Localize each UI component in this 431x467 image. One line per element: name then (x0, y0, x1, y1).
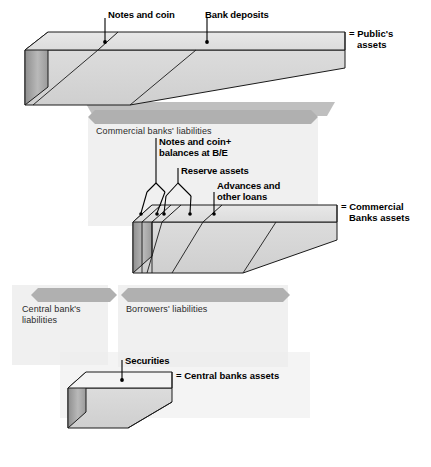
slab-front-face (25, 50, 345, 105)
banner-label-central-bank-liabilities-line2: liabilities (22, 315, 57, 327)
banner-borrowers-liabilities (121, 288, 290, 302)
callout-label-bank-deposits: Bank deposits (205, 9, 269, 20)
diagram-canvas (0, 0, 431, 467)
banner-central-bank-liabilities (31, 288, 117, 302)
right-label-commercial-banks-line1: = Commercial (341, 201, 404, 212)
banner-chevron-shape (31, 288, 117, 302)
balance-sheet-layers-diagram: Notes and coin Bank deposits = Public's … (0, 0, 431, 467)
callout-dot-securities (120, 378, 124, 382)
banner-chevron-shape (88, 110, 318, 124)
callout-dot-notes-and-coin (103, 40, 107, 44)
right-label-publics-assets-line2: assets (357, 39, 387, 50)
callout-label-notes-and-coin: Notes and coin (108, 9, 175, 20)
callout-label-securities: Securities (125, 355, 169, 366)
slab-front-face (133, 222, 337, 273)
callout-label-reserve-assets: Reserve assets (181, 165, 249, 176)
callout-dot-bank-deposits (205, 40, 209, 44)
right-label-publics-assets-line1: = Public's (349, 28, 393, 39)
right-label-commercial-banks-line2: Banks assets (349, 212, 410, 223)
callout-label-advances-line1: Advances and (217, 180, 280, 191)
banner-label-borrowers-liabilities: Borrowers' liabilities (126, 304, 207, 316)
right-label-central-banks-assets: = Central banks assets (176, 370, 279, 381)
slab-top-face (68, 372, 172, 388)
banner-commercial-banks-liabilities (88, 110, 318, 124)
slab-publics-assets (25, 18, 345, 116)
banner-label-central-bank-liabilities-line1: Central bank's (22, 304, 81, 316)
callout-label-advances-line2: other loans (217, 191, 267, 202)
callout-label-notes-coin-balances-line1: Notes and coin+ (159, 136, 231, 147)
callout-label-notes-coin-balances-line2: balances at B/E (159, 147, 228, 158)
slab-top-face (25, 32, 345, 50)
banner-chevron-shape (121, 288, 290, 302)
